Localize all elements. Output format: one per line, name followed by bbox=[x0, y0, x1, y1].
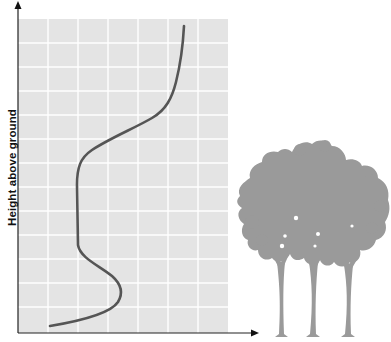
y-axis-label: Height above ground bbox=[5, 116, 19, 226]
tree-silhouette-icon bbox=[237, 140, 389, 337]
y-axis-arrow-icon bbox=[15, 1, 22, 9]
diagram: Height above ground bbox=[0, 0, 391, 342]
x-axis-arrow-icon bbox=[251, 330, 259, 337]
plot-area bbox=[18, 19, 228, 333]
